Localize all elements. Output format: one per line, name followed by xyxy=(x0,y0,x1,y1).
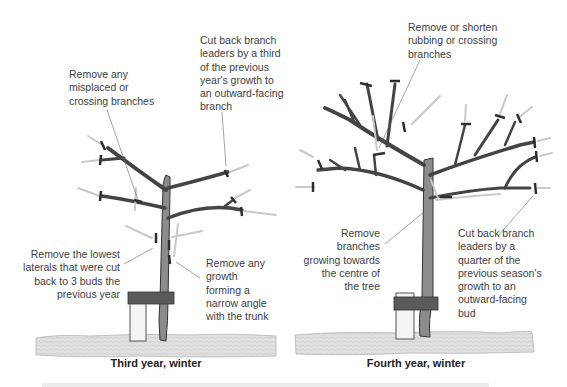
caption-third-year: Third year, winter xyxy=(36,357,276,369)
footer-divider xyxy=(42,383,489,387)
annotation-cut-back-third: Cut back branch leaders by a third of th… xyxy=(200,34,283,114)
tree-tie-left xyxy=(128,292,174,304)
annotation-remove-misplaced: Remove any misplaced or crossing branche… xyxy=(69,68,154,108)
annotation-remove-centre-branches: Remove branches growing towards the cent… xyxy=(300,227,380,293)
caption-fourth-year: Fourth year, winter xyxy=(296,357,536,369)
annotation-cut-back-quarter: Cut back branch leaders by a quarter of … xyxy=(458,227,542,320)
annotation-remove-narrow-angle: Remove any growth forming a narrow angle… xyxy=(206,257,268,323)
annotation-remove-rubbing: Remove or shorten rubbing or crossing br… xyxy=(408,21,497,61)
ground-left xyxy=(36,334,276,357)
tree-tie-right xyxy=(394,297,438,310)
annotation-remove-lowest-laterals: Remove the lowest laterals that were cut… xyxy=(22,248,120,301)
